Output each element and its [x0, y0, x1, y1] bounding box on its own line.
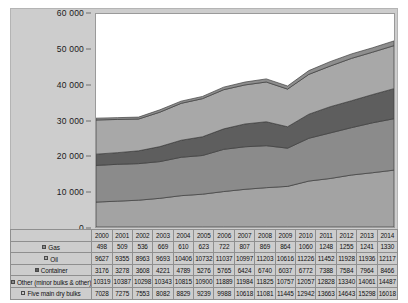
table-cell: 14487 [377, 276, 397, 288]
table-cell: 10815 [173, 276, 193, 288]
y-axis-tick-label: 40 000 [57, 81, 84, 89]
table-cell: 3278 [112, 264, 132, 276]
table-cell: 722 [214, 241, 234, 253]
legend-row-label: Five main dry bulks [11, 287, 92, 299]
table-cell: 10319 [92, 276, 112, 288]
table-cell: 864 [275, 241, 295, 253]
table-cell: 13340 [336, 276, 356, 288]
legend-label-text: Five main dry bulks [27, 290, 80, 297]
table-cell: 11203 [255, 253, 275, 265]
table-year-header-2000: 2000 [92, 230, 112, 242]
legend-swatch-icon [35, 268, 39, 272]
y-axis-tick-mark [86, 13, 91, 14]
table-cell: 536 [132, 241, 152, 253]
table-year-header-2008: 2008 [255, 230, 275, 242]
header-corner-blank [11, 230, 92, 242]
table-cell: 10900 [194, 276, 214, 288]
table-cell: 14643 [336, 287, 356, 299]
y-axis-tick-mark [86, 120, 91, 121]
table-cell: 1241 [357, 241, 377, 253]
stacked-area-chart: 010 00020 00030 00040 00050 00060 000 [10, 8, 398, 233]
table-year-header-2010: 2010 [296, 230, 316, 242]
y-axis-tick-label: 50 000 [57, 45, 84, 53]
table-cell: 9988 [214, 287, 234, 299]
table-cell: 16018 [377, 287, 397, 299]
table-cell: 6424 [234, 264, 254, 276]
legend-label-text: Oil [50, 255, 58, 262]
table-cell: 9627 [92, 253, 112, 265]
legend-row-label: Container [11, 264, 92, 276]
table-cell: 3608 [132, 264, 152, 276]
table-cell: 6037 [275, 264, 295, 276]
table-cell: 5276 [194, 264, 214, 276]
table-year-header-2006: 2006 [214, 230, 234, 242]
table-cell: 8466 [377, 264, 397, 276]
legend-row-label: Other (minor bulks & other) [11, 276, 92, 288]
table-row: Container3176327836084221478952765765642… [11, 264, 398, 276]
table-cell: 9693 [153, 253, 173, 265]
table-cell: 10757 [275, 276, 295, 288]
table-year-header-2014: 2014 [377, 230, 397, 242]
table-cell: 10616 [275, 253, 295, 265]
y-axis-tick-label: 30 000 [57, 117, 84, 125]
table-cell: 509 [112, 241, 132, 253]
table-cell: 11825 [255, 276, 275, 288]
table-cell: 12942 [296, 287, 316, 299]
legend-row-label: Oil [11, 253, 92, 265]
table-year-header-2002: 2002 [132, 230, 152, 242]
y-axis-tick-label: 10 000 [57, 188, 84, 196]
table-cell: 11037 [214, 253, 234, 265]
legend-swatch-icon [44, 256, 48, 260]
table-cell: 10732 [194, 253, 214, 265]
table-cell: 15298 [357, 287, 377, 299]
legend-row-label: Gas [11, 241, 92, 253]
table-cell: 7275 [112, 287, 132, 299]
table-cell: 7553 [132, 287, 152, 299]
area-series-canvas [96, 14, 394, 227]
table-cell: 8082 [153, 287, 173, 299]
table-cell: 11936 [357, 253, 377, 265]
table-cell: 13663 [316, 287, 336, 299]
series-value-table: 2000200120022003200420052006200720082009… [10, 229, 398, 300]
table-year-header-2004: 2004 [173, 230, 193, 242]
table-year-header-2011: 2011 [316, 230, 336, 242]
legend-label-text: Gas [48, 244, 59, 251]
table-row: Other (minor bulks & other)1031910387102… [11, 276, 398, 288]
table-row: Oil9627935589639693104061073211037109971… [11, 253, 398, 265]
table-cell: 10618 [234, 287, 254, 299]
table-cell: 10406 [173, 253, 193, 265]
table-cell: 12117 [377, 253, 397, 265]
table-cell: 12828 [316, 276, 336, 288]
table-cell: 11984 [234, 276, 254, 288]
table-cell: 11452 [316, 253, 336, 265]
table-cell: 623 [194, 241, 214, 253]
table-cell: 4789 [173, 264, 193, 276]
table-cell: 1255 [336, 241, 356, 253]
table-cell: 6772 [296, 264, 316, 276]
table-cell: 12057 [296, 276, 316, 288]
table-cell: 11226 [296, 253, 316, 265]
table-year-header-2012: 2012 [336, 230, 356, 242]
table-cell: 807 [234, 241, 254, 253]
legend-swatch-icon [42, 245, 46, 249]
table-year-header-2001: 2001 [112, 230, 132, 242]
table-row: Gas4985095366696106237228078698641060124… [11, 241, 398, 253]
y-axis-tick-label: 60 000 [57, 9, 84, 17]
table-year-header-2007: 2007 [234, 230, 254, 242]
table-cell: 9239 [194, 287, 214, 299]
y-axis-tick-mark [86, 84, 91, 85]
legend-label-text: Container [41, 267, 68, 274]
table-cell: 7964 [357, 264, 377, 276]
table-cell: 11445 [275, 287, 295, 299]
table-cell: 3176 [92, 264, 112, 276]
table-cell: 1248 [316, 241, 336, 253]
table-year-header-2009: 2009 [275, 230, 295, 242]
legend-label-text: Other (minor bulks & other) [17, 279, 91, 286]
table-cell: 669 [153, 241, 173, 253]
table-row: Five main dry bulks702872757553808288299… [11, 287, 398, 299]
table-cell: 6740 [255, 264, 275, 276]
y-axis: 010 00020 00030 00040 00050 00060 000 [10, 13, 92, 228]
table-cell: 8963 [132, 253, 152, 265]
table-cell: 8829 [173, 287, 193, 299]
table-year-header-2013: 2013 [357, 230, 377, 242]
